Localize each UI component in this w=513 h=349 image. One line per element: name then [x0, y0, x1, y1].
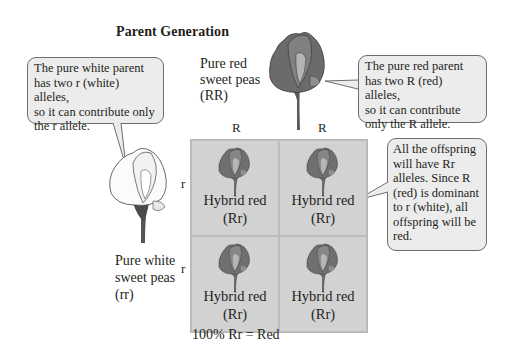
- column-allele-1: R: [232, 120, 241, 136]
- cell-phenotype: Hybrid red: [280, 287, 366, 305]
- hybrid-flower-icon: [305, 147, 341, 197]
- cell-phenotype: Hybrid red: [280, 191, 366, 209]
- cell-genotype: (Rr): [192, 305, 278, 323]
- cell-phenotype: Hybrid red: [192, 287, 278, 305]
- white-parent-label-line: (rr): [115, 286, 175, 303]
- white-flower-icon: [105, 145, 177, 245]
- punnett-cell: Hybrid red (Rr): [279, 236, 367, 332]
- cell-genotype: (Rr): [192, 209, 278, 227]
- cell-phenotype: Hybrid red: [192, 191, 278, 209]
- red-parent-label: Pure red sweet peas (RR): [200, 56, 260, 104]
- punnett-square: Hybrid red (Rr) Hybrid red (Rr) Hybrid r…: [190, 139, 368, 333]
- row-allele-2: r: [181, 261, 185, 277]
- row-allele-1: r: [181, 176, 185, 192]
- punnett-result: 100% Rr = Red: [192, 327, 280, 343]
- punnett-cell: Hybrid red (Rr): [191, 236, 279, 332]
- red-flower-icon: [266, 30, 332, 132]
- cell-genotype: (Rr): [280, 209, 366, 227]
- white-parent-label-line: Pure white: [115, 252, 175, 269]
- column-allele-2: R: [318, 120, 327, 136]
- punnett-cell: Hybrid red (Rr): [279, 140, 367, 236]
- red-parent-label-line: sweet peas: [200, 72, 260, 88]
- hybrid-flower-icon: [217, 243, 253, 293]
- red-parent-label-line: Pure red: [200, 56, 260, 72]
- white-parent-label-line: sweet peas: [115, 269, 175, 286]
- hybrid-flower-icon: [305, 243, 341, 293]
- white-parent-label: Pure white sweet peas (rr): [115, 252, 175, 303]
- cell-genotype: (Rr): [280, 305, 366, 323]
- punnett-cell: Hybrid red (Rr): [191, 140, 279, 236]
- hybrid-flower-icon: [217, 147, 253, 197]
- red-parent-label-line: (RR): [200, 88, 260, 104]
